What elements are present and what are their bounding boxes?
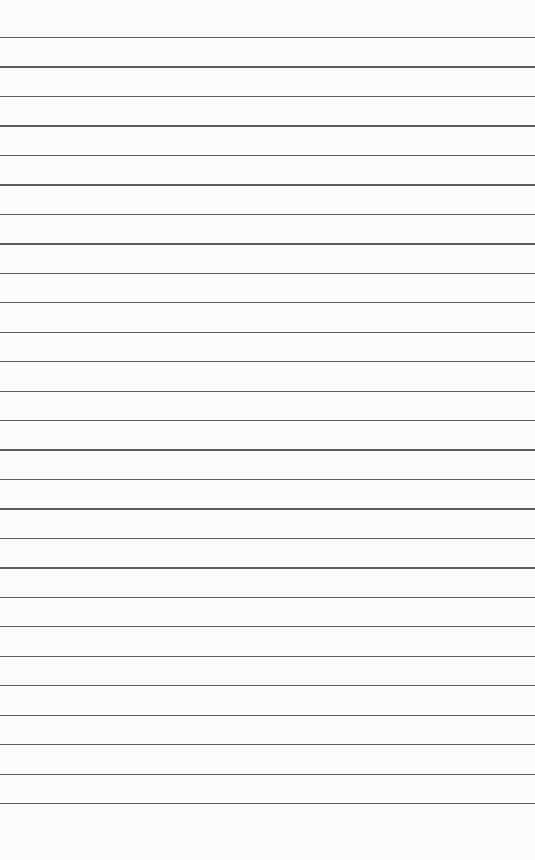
ruled-line bbox=[0, 508, 535, 509]
ruled-line bbox=[0, 774, 535, 775]
ruled-line bbox=[0, 479, 535, 480]
ruled-line bbox=[0, 273, 535, 274]
ruled-line bbox=[0, 803, 535, 804]
ruled-line bbox=[0, 449, 535, 450]
ruled-line bbox=[0, 391, 535, 392]
ruled-line bbox=[0, 243, 535, 244]
ruled-line bbox=[0, 626, 535, 627]
ruled-line bbox=[0, 656, 535, 657]
ruled-line bbox=[0, 37, 535, 38]
ruled-line bbox=[0, 420, 535, 421]
ruled-line bbox=[0, 96, 535, 97]
ruled-line bbox=[0, 302, 535, 303]
ruled-line bbox=[0, 685, 535, 686]
ruled-line bbox=[0, 66, 535, 67]
ruled-line bbox=[0, 155, 535, 156]
ruled-line bbox=[0, 125, 535, 126]
ruled-line bbox=[0, 538, 535, 539]
ruled-line bbox=[0, 597, 535, 598]
ruled-line bbox=[0, 744, 535, 745]
lined-paper bbox=[0, 0, 535, 860]
ruled-line bbox=[0, 567, 535, 568]
ruled-line bbox=[0, 214, 535, 215]
ruled-line bbox=[0, 332, 535, 333]
ruled-line bbox=[0, 715, 535, 716]
ruled-line bbox=[0, 184, 535, 185]
ruled-line bbox=[0, 361, 535, 362]
